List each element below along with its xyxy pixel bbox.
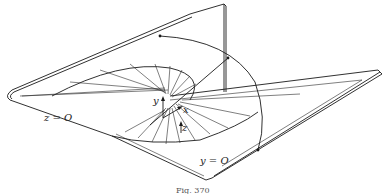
- radial-fan: [22, 64, 300, 144]
- label-axis-x: x: [183, 104, 189, 115]
- diagram-canvas: z = O y = O y x z Fig. 370: [0, 0, 384, 194]
- label-axis-z: z: [181, 122, 188, 133]
- label-plane-z0: z = O: [43, 112, 72, 123]
- axes: [161, 96, 183, 133]
- figure-caption: Fig. 370: [176, 186, 210, 194]
- plane-y0-vertical: [190, 4, 226, 92]
- diagonal-axis: [150, 58, 228, 125]
- label-plane-y0: y = O: [199, 155, 229, 166]
- plane-right-wedge: [112, 70, 382, 180]
- label-axis-y: y: [152, 95, 159, 106]
